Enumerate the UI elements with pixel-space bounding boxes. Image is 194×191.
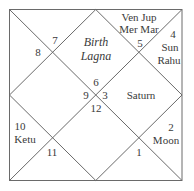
house-2-sign: 5 [137, 38, 143, 49]
chart-grid [0, 0, 194, 191]
house-1-sign: 6 [93, 77, 99, 88]
house-4-planets: Saturn [127, 90, 156, 101]
house-2-planets-line2: Mer Mar [119, 24, 158, 35]
house-2-planets-line1: Ven Jup [121, 12, 156, 23]
house-4-sign: 3 [102, 90, 108, 101]
house-7-sign: 12 [91, 103, 102, 114]
house-9-sign: 10 [15, 121, 26, 132]
house-5-sign: 2 [168, 122, 174, 133]
lagna-label-bottom: Lagna [81, 50, 112, 62]
house-9-planets: Ketu [14, 134, 35, 145]
house-5-planets: Moon [153, 135, 179, 146]
house-3-sign: 4 [170, 29, 176, 40]
house-10-sign: 9 [83, 90, 89, 101]
house-3-planets-line2: Rahu [157, 55, 180, 66]
house-8-sign: 11 [47, 147, 58, 158]
house-11-sign: 8 [35, 47, 41, 58]
house-12-sign: 7 [52, 35, 58, 46]
lagna-label-top: Birth [84, 36, 109, 48]
house-6-sign: 1 [136, 147, 142, 158]
house-3-planets-line1: Sun [161, 42, 178, 53]
